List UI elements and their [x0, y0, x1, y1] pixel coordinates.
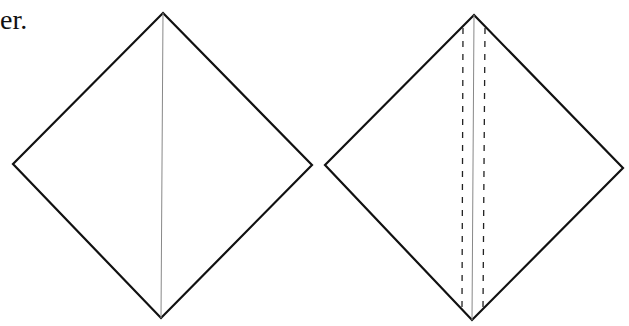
- left-diamond-center-crease: [161, 13, 163, 318]
- right-diamond: [325, 15, 623, 320]
- right-diamond-center-crease: [472, 15, 474, 320]
- right-diamond-left-dashed-fold: [462, 28, 463, 308]
- right-diamond-right-dashed-fold: [483, 28, 485, 308]
- left-diamond: [13, 13, 312, 318]
- diagram-canvas: er.: [0, 0, 629, 326]
- folding-diagram: [0, 0, 629, 326]
